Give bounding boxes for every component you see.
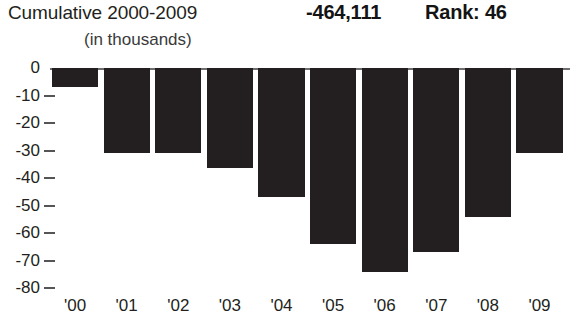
rank-label: Rank: 46 [425, 1, 507, 24]
x-axis-tick-label: '04 [258, 296, 304, 316]
bar-series [0, 55, 572, 295]
bar-03 [207, 68, 253, 168]
chart-title: Cumulative 2000-2009 [8, 2, 197, 24]
bar-04 [258, 68, 304, 197]
x-axis-tick-label: '01 [104, 296, 150, 316]
bar-09 [516, 68, 562, 153]
bar-06 [362, 68, 408, 272]
bar-07 [413, 68, 459, 252]
cumulative-total-value: -464,111 [306, 1, 381, 24]
chart-header: Cumulative 2000-2009 -464,111 Rank: 46 [0, 0, 572, 30]
bar-01 [104, 68, 150, 153]
x-axis: '00'01'02'03'04'05'06'07'08'09 [0, 296, 572, 324]
x-axis-tick-label: '03 [207, 296, 253, 316]
bar-02 [155, 68, 201, 153]
net-migration-bar-chart-figure: Cumulative 2000-2009 -464,111 Rank: 46 (… [0, 0, 572, 324]
x-axis-tick-label: '08 [465, 296, 511, 316]
bar-05 [310, 68, 356, 244]
bar-00 [52, 68, 98, 87]
plot-area: 0-10-20-30-40-50-60-70-80 [0, 55, 572, 295]
x-axis-tick-label: '09 [516, 296, 562, 316]
x-axis-tick-label: '07 [413, 296, 459, 316]
x-axis-tick-label: '05 [310, 296, 356, 316]
x-axis-tick-label: '02 [155, 296, 201, 316]
bar-08 [465, 68, 511, 217]
units-note: (in thousands) [84, 30, 192, 50]
x-axis-tick-label: '00 [52, 296, 98, 316]
x-axis-tick-label: '06 [362, 296, 408, 316]
